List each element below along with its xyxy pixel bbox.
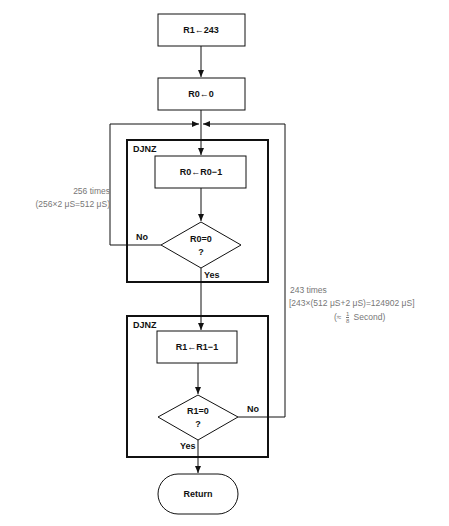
- outer-djnz-label: DJNZ: [133, 320, 157, 330]
- inner-djnz-group: [127, 140, 268, 282]
- outer-yes-label: Yes: [180, 441, 196, 451]
- dec-r0-label: R0←R0−1: [180, 167, 222, 177]
- one-eighth-fraction: 1 8: [346, 311, 349, 324]
- inner-timing-note: (256×2 μS=512 μS): [35, 199, 110, 209]
- test-r1-label: R1=0: [187, 406, 209, 416]
- flowchart-canvas: [0, 0, 449, 526]
- test-r1-diamond: [158, 395, 238, 440]
- return-label: Return: [184, 489, 213, 499]
- approx-prefix: (≈: [334, 312, 342, 322]
- inner-count-note: 256 times: [73, 186, 110, 196]
- dec-r1-label: R1←R1−1: [176, 342, 218, 352]
- init-r1-label: R1←243: [183, 25, 219, 35]
- test-r0-question: ?: [198, 247, 204, 257]
- inner-djnz-label: DJNZ: [133, 144, 157, 154]
- test-r0-label: R0=0: [190, 234, 212, 244]
- test-r0-diamond: [161, 222, 241, 268]
- approx-suffix: Second): [354, 312, 386, 322]
- outer-count-note: 243 times: [290, 285, 327, 295]
- test-r1-question: ?: [195, 419, 201, 429]
- init-r0-label: R0←0: [188, 89, 214, 99]
- outer-timing-note: [243×(512 μS+2 μS)=124902 μS]: [289, 298, 415, 308]
- outer-no-label: No: [247, 404, 259, 414]
- inner-yes-label: Yes: [204, 270, 220, 280]
- outer-approx-note: (≈ 1 8 Second): [334, 311, 385, 324]
- inner-no-label: No: [136, 232, 148, 242]
